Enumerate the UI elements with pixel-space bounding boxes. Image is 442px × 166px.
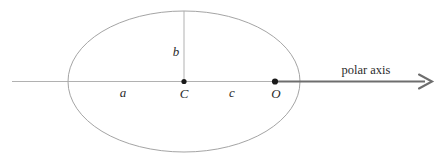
label-center-C: C (180, 86, 189, 101)
ellipse-polar-axis-figure: a b c C O polar axis (0, 0, 442, 166)
diagram-canvas: a b c C O polar axis (0, 0, 442, 166)
label-c: c (229, 85, 235, 100)
label-a: a (120, 85, 127, 100)
label-origin-O: O (271, 86, 281, 101)
label-polar-axis: polar axis (342, 63, 391, 77)
center-point-C (181, 79, 186, 84)
label-b: b (173, 44, 180, 59)
origin-point-O (272, 78, 278, 84)
